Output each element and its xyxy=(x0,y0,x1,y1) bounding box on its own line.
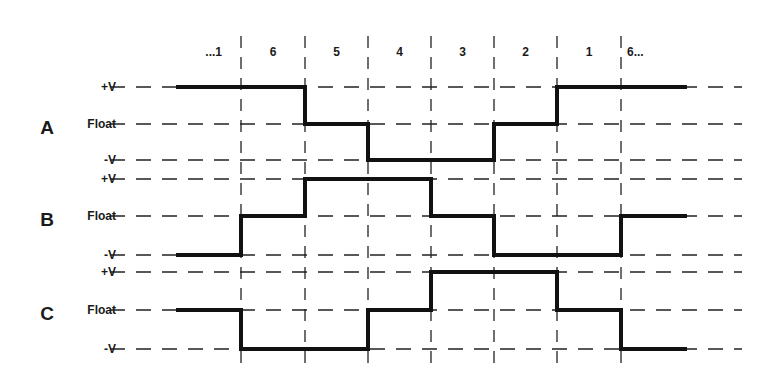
step-label: 5 xyxy=(333,45,340,59)
step-label: 4 xyxy=(396,45,403,59)
phase-label-b: B xyxy=(40,209,54,230)
step-label: 3 xyxy=(459,45,466,59)
signal-phase-b xyxy=(176,179,687,255)
step-label: 2 xyxy=(522,45,529,59)
step-label: 6... xyxy=(627,45,644,59)
step-label: 1 xyxy=(586,45,593,59)
step-label: 6 xyxy=(270,45,277,59)
phase-label-a: A xyxy=(40,117,54,138)
level-label-low: -V xyxy=(104,248,116,262)
step-labels: ...16543216... xyxy=(205,45,643,59)
level-label-high: +V xyxy=(101,265,116,279)
level-label-float: Float xyxy=(87,117,116,131)
level-labels: +VFloat-V+VFloat-V+VFloat-V xyxy=(87,80,116,356)
commutation-diagram: ...16543216... +VFloat-V+VFloat-V+VFloat… xyxy=(0,0,781,388)
phase-labels: ABC xyxy=(40,117,54,324)
phase-label-c: C xyxy=(40,303,54,324)
step-label: ...1 xyxy=(205,45,222,59)
level-label-high: +V xyxy=(101,172,116,186)
level-label-float: Float xyxy=(87,303,116,317)
level-label-low: -V xyxy=(104,153,116,167)
level-label-low: -V xyxy=(104,342,116,356)
level-label-high: +V xyxy=(101,80,116,94)
level-label-float: Float xyxy=(87,209,116,223)
